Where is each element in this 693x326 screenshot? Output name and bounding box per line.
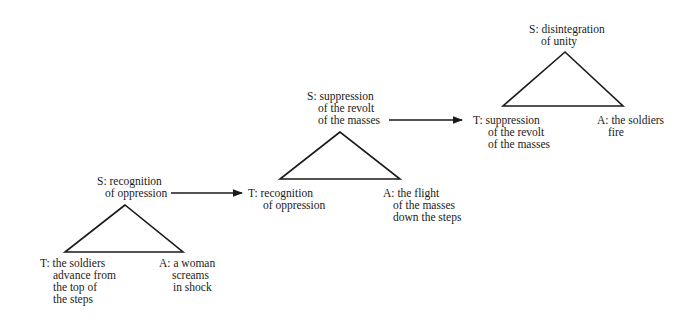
t1-antithesis-label: A: a woman screams in shock: [159, 257, 215, 293]
t2-situation-label: S: suppression of the revolt of the mass…: [307, 90, 380, 126]
t1-situation-label: S: recognition of oppression: [97, 175, 167, 199]
label-line: T: suppression: [473, 114, 550, 126]
label-line: the steps: [40, 293, 116, 305]
label-line: of oppression: [248, 199, 325, 211]
label-line: S: disintegration: [529, 23, 605, 35]
label-line: T: the soldiers: [40, 257, 116, 269]
label-line: of the masses: [473, 138, 550, 150]
t2-thesis-label: T: recognition of oppression: [248, 187, 325, 211]
label-line: the top of: [40, 281, 116, 293]
t3-antithesis-label: A: the soldiers fire: [597, 114, 664, 138]
label-line: fire: [597, 126, 664, 138]
t1-thesis-label: T: the soldiers advance from the top of …: [40, 257, 116, 305]
triangle-2: [280, 132, 400, 179]
label-line: T: recognition: [248, 187, 325, 199]
label-line: of the masses: [383, 199, 461, 211]
label-line: A: the soldiers: [597, 114, 664, 126]
label-line: A: the flight: [383, 187, 461, 199]
label-line: A: a woman: [159, 257, 215, 269]
label-line: of the revolt: [473, 126, 550, 138]
label-line: in shock: [159, 281, 215, 293]
label-line: S: suppression: [307, 90, 380, 102]
label-line: of the revolt: [307, 102, 380, 114]
label-line: down the steps: [383, 211, 461, 223]
triangle-3: [503, 52, 623, 106]
t3-situation-label: S: disintegration of unity: [529, 23, 605, 47]
label-line: screams: [159, 269, 215, 281]
label-line: advance from: [40, 269, 116, 281]
label-line: of oppression: [97, 187, 167, 199]
label-line: of unity: [529, 35, 605, 47]
t2-antithesis-label: A: the flight of the masses down the ste…: [383, 187, 461, 223]
triangle-1: [65, 205, 183, 252]
label-line: of the masses: [307, 114, 380, 126]
label-line: S: recognition: [97, 175, 167, 187]
t3-thesis-label: T: suppression of the revolt of the mass…: [473, 114, 550, 150]
